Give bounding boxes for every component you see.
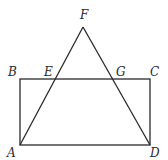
figure-drawing bbox=[0, 0, 168, 160]
geometry-figure: F B E G C A D bbox=[0, 0, 168, 160]
label-d: D bbox=[150, 147, 160, 159]
label-a: A bbox=[7, 147, 16, 159]
label-g: G bbox=[116, 66, 126, 78]
label-e: E bbox=[44, 66, 53, 78]
segment-af bbox=[20, 27, 83, 145]
label-c: C bbox=[150, 66, 159, 78]
segment-fd bbox=[83, 27, 150, 145]
label-b: B bbox=[8, 66, 17, 78]
rectangle-abcd bbox=[20, 79, 150, 145]
label-f: F bbox=[80, 9, 88, 21]
